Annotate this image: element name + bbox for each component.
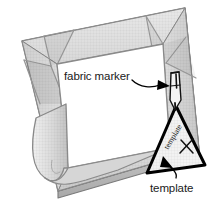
illustration-canvas: template fabric marker template [0,0,214,201]
label-fabric-marker: fabric marker [64,70,130,82]
label-template: template [150,182,193,194]
frame-inner-window [57,44,170,168]
fabric-frame-illustration: template [0,0,214,201]
